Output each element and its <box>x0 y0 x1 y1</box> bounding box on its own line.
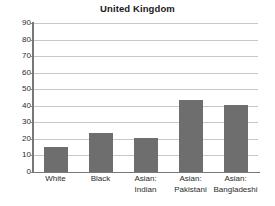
bar <box>44 147 68 172</box>
x-axis-category-label-line: Bangladeshi <box>209 185 262 196</box>
bar <box>224 105 248 172</box>
y-axis-tick-label: 60 <box>3 69 31 77</box>
chart-title: United Kingdom <box>0 3 275 14</box>
bar <box>179 100 203 172</box>
y-axis-tick-label: 90 <box>3 19 31 27</box>
y-axis-tick-label: 10 <box>3 151 31 159</box>
bar <box>134 138 158 172</box>
y-axis-tick-label: 70 <box>3 52 31 60</box>
chart-screenshot: United Kingdom 9080706050403020100 White… <box>0 0 275 206</box>
y-axis-tick-label: 30 <box>3 118 31 126</box>
x-axis-category-label: Asian:Bangladeshi <box>209 174 262 195</box>
y-axis-tick-label: 40 <box>3 102 31 110</box>
y-axis-tick-labels: 9080706050403020100 <box>0 0 31 206</box>
x-axis-category-label-line: Asian: <box>209 174 262 185</box>
y-axis-tick-label: 50 <box>3 85 31 93</box>
x-axis-category-labels: WhiteBlackAsian:IndianAsian:PakistaniAsi… <box>33 174 265 204</box>
y-axis-tick-label: 20 <box>3 135 31 143</box>
bar-series <box>33 23 258 172</box>
bar <box>89 133 113 172</box>
y-axis-tick-label: 0 <box>3 168 31 176</box>
y-axis-tick-label: 80 <box>3 36 31 44</box>
